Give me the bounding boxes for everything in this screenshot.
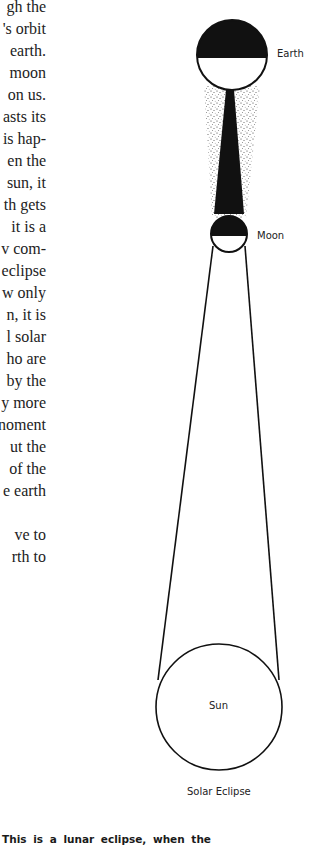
sun-label: Sun	[209, 700, 228, 711]
sun-rays	[158, 246, 279, 680]
diagram-caption: Solar Eclipse	[187, 786, 251, 797]
lunar-eclipse-caption: This is a lunar eclipse, when the	[2, 833, 211, 845]
solar-eclipse-diagram	[0, 0, 316, 847]
earth-body	[195, 18, 269, 90]
moon-label: Moon	[257, 230, 284, 241]
moon-body	[209, 214, 249, 252]
earth-label: Earth	[277, 48, 304, 59]
